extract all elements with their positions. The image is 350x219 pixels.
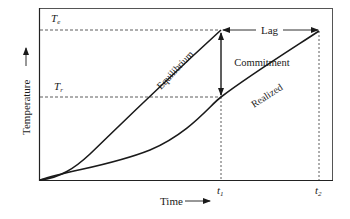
equilibrium-label: Equilibrium bbox=[154, 48, 195, 91]
t1-tick-label: t1 bbox=[217, 184, 224, 198]
lag-label: Lag bbox=[261, 24, 279, 36]
x-axis-label: Time bbox=[160, 195, 183, 207]
plot-frame bbox=[40, 9, 333, 181]
commitment-label: Commitment bbox=[234, 57, 290, 68]
y-axis-label: Temperature bbox=[20, 79, 32, 135]
realized-curve bbox=[40, 31, 319, 180]
temperature-diagram: Lag Commitment Equilibrium Realized Te T… bbox=[0, 0, 350, 219]
tr-marker: Tr bbox=[54, 80, 63, 94]
te-marker: Te bbox=[51, 12, 60, 26]
t2-tick-label: t2 bbox=[315, 184, 322, 198]
realized-label: Realized bbox=[249, 81, 284, 109]
